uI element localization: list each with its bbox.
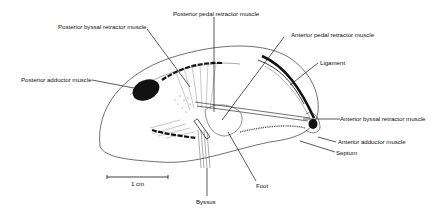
label-foot: Foot bbox=[256, 183, 268, 189]
anterior-adductor-shape bbox=[309, 119, 318, 129]
leader-posterior-byssal bbox=[147, 29, 190, 87]
label-anterior-adductor: Anterior adductor muscle bbox=[338, 139, 406, 145]
label-anterior-pedal-retractor: Anterior pedal retractor muscle bbox=[291, 32, 374, 38]
scale-bar-label: 1 cm bbox=[131, 181, 144, 187]
leader-anterior-pedal bbox=[222, 37, 284, 120]
label-byssus: Byssus bbox=[196, 199, 216, 205]
label-anterior-byssal-retractor: Anterior byssal retractor muscle bbox=[340, 116, 425, 122]
posterior-adductor-shape bbox=[129, 75, 163, 105]
label-septum: Septum bbox=[336, 150, 357, 156]
mussel-anatomy-diagram: Posterior pedal retractor muscle Posteri… bbox=[0, 0, 448, 215]
label-ligament: Ligament bbox=[320, 60, 345, 66]
label-posterior-pedal-retractor: Posterior pedal retractor muscle bbox=[173, 11, 259, 17]
anatomy-drawing bbox=[0, 0, 448, 215]
scale-bar bbox=[107, 175, 168, 179]
leader-foot bbox=[228, 132, 256, 181]
leader-septum bbox=[300, 141, 335, 152]
label-posterior-byssal-retractor: Posterior byssal retractor muscle bbox=[58, 24, 146, 30]
label-posterior-adductor: Posterior adductor muscle bbox=[21, 77, 92, 83]
leader-ligament bbox=[290, 63, 318, 85]
leader-anterior-adductor bbox=[318, 137, 336, 142]
